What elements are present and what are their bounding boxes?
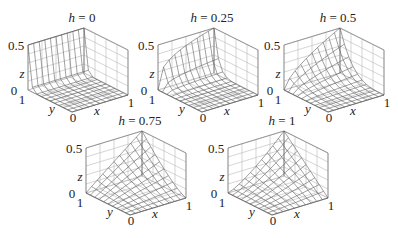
x-axis-label: x [93, 103, 100, 118]
z-tick-0: 0 [211, 186, 218, 201]
surface-panel-h-0.5: h = 0.50.5z01y0x1 [264, 10, 390, 125]
z-axis-label: z [76, 169, 82, 184]
x-tick-1: 1 [258, 95, 265, 110]
x-tick-1: 1 [328, 198, 335, 213]
x-axis-label: x [293, 206, 300, 221]
xy-tick-0: 0 [200, 110, 207, 125]
z-tick-0.5: 0.5 [138, 38, 154, 53]
x-axis-label: x [223, 103, 230, 118]
z-tick-0: 0 [267, 83, 274, 98]
y-axis-label: y [105, 204, 113, 219]
x-axis-label: x [349, 103, 356, 118]
y-tick-1: 1 [219, 195, 226, 210]
x-axis-label: x [151, 206, 158, 221]
z-tick-0.5: 0.5 [66, 141, 82, 156]
xy-tick-0: 0 [326, 110, 333, 125]
surface-panel-h-1: h = 10.5z01y0x1 [208, 113, 334, 228]
surface-panel-h-0.25: h = 0.250.5z01y0x1 [138, 10, 264, 125]
z-tick-0: 0 [11, 83, 18, 98]
figure-canvas: h = 00.5z01y0x1h = 0.250.5z01y0x1h = 0.5… [0, 0, 398, 238]
surface-panel-h-0: h = 00.5z01y0x1 [8, 10, 134, 125]
x-tick-1: 1 [186, 198, 193, 213]
y-axis-label: y [177, 101, 185, 116]
z-tick-0.5: 0.5 [208, 141, 224, 156]
xy-tick-0: 0 [270, 213, 277, 228]
wireframe-mesh [28, 28, 128, 112]
panel-title: h = 0.5 [320, 10, 357, 25]
panel-title: h = 0 [69, 10, 96, 25]
y-tick-1: 1 [149, 92, 156, 107]
panel-title: h = 1 [269, 113, 296, 128]
xy-tick-0: 0 [128, 213, 135, 228]
z-tick-0: 0 [69, 186, 76, 201]
z-axis-label: z [218, 169, 224, 184]
panel-title: h = 0.25 [190, 10, 233, 25]
surface-panel-h-0.75: h = 0.750.5z01y0x1 [66, 113, 192, 228]
x-tick-1: 1 [384, 95, 391, 110]
y-axis-label: y [47, 101, 55, 116]
x-tick-1: 1 [128, 95, 135, 110]
y-tick-1: 1 [19, 92, 26, 107]
z-tick-0: 0 [141, 83, 148, 98]
panel-title: h = 0.75 [118, 113, 161, 128]
z-tick-0.5: 0.5 [264, 38, 280, 53]
z-axis-label: z [18, 66, 24, 81]
y-tick-1: 1 [77, 195, 84, 210]
y-tick-1: 1 [275, 92, 282, 107]
y-axis-label: y [247, 204, 255, 219]
y-axis-label: y [303, 101, 311, 116]
xy-tick-0: 0 [70, 110, 77, 125]
z-axis-label: z [148, 66, 154, 81]
z-axis-label: z [274, 66, 280, 81]
z-tick-0.5: 0.5 [8, 38, 24, 53]
